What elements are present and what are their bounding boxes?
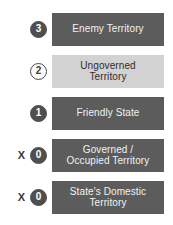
territory-legend-diagram: X 3 Enemy Territory X 2 Ungoverned Terri… bbox=[0, 0, 173, 225]
legend-row: X 0 State's Domestic Territory bbox=[0, 180, 164, 214]
badge-column: X 0 bbox=[0, 189, 52, 206]
badge-column: X 3 bbox=[0, 21, 52, 38]
legend-row: X 0 Governed / Occupied Territory bbox=[0, 138, 164, 172]
legend-bar: State's Domestic Territory bbox=[52, 181, 164, 214]
badge-column: X 2 bbox=[0, 63, 52, 80]
legend-bar-label: Governed / Occupied Territory bbox=[67, 144, 150, 167]
rank-badge: 1 bbox=[30, 105, 47, 122]
rank-badge: 3 bbox=[30, 21, 47, 38]
legend-row: X 1 Friendly State bbox=[0, 96, 164, 130]
rank-badge: 2 bbox=[30, 63, 47, 80]
legend-bar-label: Friendly State bbox=[76, 107, 139, 119]
x-mark-icon: X bbox=[18, 192, 25, 203]
legend-bar: Governed / Occupied Territory bbox=[52, 139, 164, 172]
rank-badge: 0 bbox=[30, 147, 47, 164]
legend-bar: Friendly State bbox=[52, 97, 164, 130]
legend-bar-label: State's Domestic Territory bbox=[70, 186, 146, 209]
legend-bar: Ungoverned Territory bbox=[52, 55, 164, 88]
legend-row: X 3 Enemy Territory bbox=[0, 12, 164, 46]
legend-row: X 2 Ungoverned Territory bbox=[0, 54, 164, 88]
legend-bar-label: Ungoverned Territory bbox=[80, 60, 135, 83]
rank-badge: 0 bbox=[30, 189, 47, 206]
badge-column: X 0 bbox=[0, 147, 52, 164]
badge-column: X 1 bbox=[0, 105, 52, 122]
x-mark-icon: X bbox=[18, 150, 25, 161]
legend-bar: Enemy Territory bbox=[52, 13, 164, 46]
legend-bar-label: Enemy Territory bbox=[72, 23, 143, 35]
